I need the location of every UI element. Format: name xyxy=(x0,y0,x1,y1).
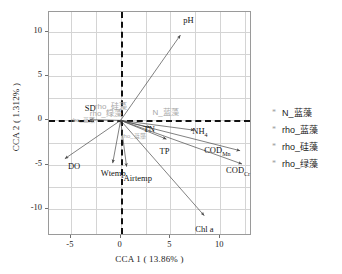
vector-label: Airtemp xyxy=(124,173,152,183)
legend-item[interactable]: *rho_蓝藻 xyxy=(266,121,318,138)
vector-label: Wtemp xyxy=(101,168,126,178)
legend-item[interactable]: *rho_硅藻 xyxy=(266,138,318,155)
legend-marker-icon: * xyxy=(266,109,282,117)
vector-label: CODCr xyxy=(226,165,250,177)
x-axis-tick-mark xyxy=(219,235,220,238)
vector-arrow xyxy=(121,120,195,130)
y-axis-tick-mark xyxy=(45,75,48,76)
vector-label: Chl a xyxy=(195,224,213,234)
x-axis-tick-mark xyxy=(169,235,170,238)
y-axis-tick-mark xyxy=(45,164,48,165)
plot-area: pHNH4CODMnCODCrTPTNChl aDOWtempAirtempSD… xyxy=(48,11,251,235)
legend-item-label: rho_蓝藻 xyxy=(282,123,318,136)
vector-label: pH xyxy=(183,15,193,25)
vector-arrow xyxy=(121,120,242,164)
y-axis-tick-mark xyxy=(45,31,48,32)
legend-item-label: rho_绿藻 xyxy=(282,157,318,170)
vector-label: TP xyxy=(160,146,170,156)
legend-item[interactable]: *N_蓝藻 xyxy=(266,104,318,121)
species-label: rho_蓝藻 xyxy=(71,115,95,124)
legend: *N_蓝藻*rho_蓝藻*rho_硅藻*rho_绿藻 xyxy=(266,104,318,172)
vector-label: NH4 xyxy=(192,126,207,138)
legend-marker-icon: * xyxy=(266,143,282,151)
legend-marker-icon: * xyxy=(266,126,282,134)
vector-arrow xyxy=(65,120,121,158)
legend-marker-icon: * xyxy=(266,160,282,168)
y-axis-tick-mark xyxy=(45,119,48,120)
vector-label: DO xyxy=(68,161,80,171)
vector-arrow xyxy=(121,120,127,166)
x-axis-tick-label: -5 xyxy=(55,239,85,249)
cca-biplot-figure: pHNH4CODMnCODCrTPTNChl aDOWtempAirtempSD… xyxy=(0,0,342,274)
x-axis-tick-mark xyxy=(70,235,71,238)
vector-label: CODMn xyxy=(204,145,230,157)
species-label: rho_蓝藻 xyxy=(122,131,146,140)
legend-item-label: N_蓝藻 xyxy=(282,106,312,119)
x-axis-tick-mark xyxy=(120,235,121,238)
x-axis-tick-label: 5 xyxy=(154,239,184,249)
y-axis-tick-label: -10 xyxy=(16,202,42,212)
y-axis-title: CCA 2 ( 1.312% ) xyxy=(11,57,21,177)
x-axis-tick-label: 0 xyxy=(105,239,135,249)
legend-item[interactable]: *rho_绿藻 xyxy=(266,155,318,172)
y-axis-tick-mark xyxy=(45,208,48,209)
x-axis-title: CCA 1 ( 13.86% ) xyxy=(48,254,251,264)
species-label: N_蓝藻 xyxy=(153,106,179,117)
y-axis-tick-label: 10 xyxy=(16,25,42,35)
legend-item-label: rho_硅藻 xyxy=(282,140,318,153)
x-axis-tick-label: 10 xyxy=(204,239,234,249)
vector-arrow xyxy=(113,120,121,163)
